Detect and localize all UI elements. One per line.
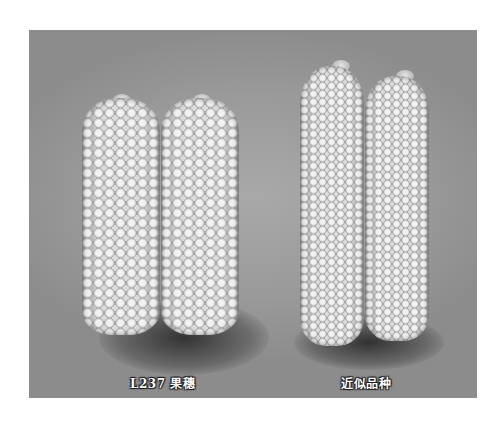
l237-ear-2 xyxy=(161,98,239,335)
similar-variety-label: 近似品种 xyxy=(341,374,391,391)
similar-variety-ear-1 xyxy=(300,66,364,346)
similar-variety-ear-2 xyxy=(365,76,429,341)
l237-ear-label: L237 果穗 xyxy=(130,374,195,391)
l237-ear-1 xyxy=(82,98,160,335)
corn-comparison-photo: L237 果穗 近似品种 xyxy=(29,30,477,398)
